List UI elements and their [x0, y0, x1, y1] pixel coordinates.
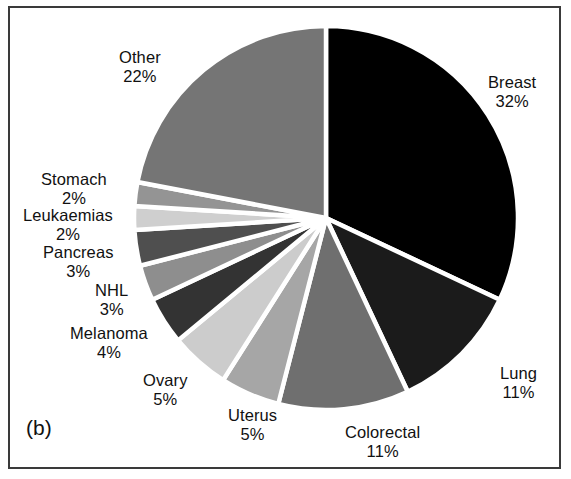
pie-label-pancreas-name: Pancreas	[43, 243, 114, 262]
figure-panel: Breast 32% Lung 11% Colorectal 11% Uteru…	[0, 0, 571, 479]
pie-label-uterus-name: Uterus	[228, 406, 277, 425]
pie-label-colorectal: Colorectal 11%	[345, 423, 420, 462]
pie-label-ovary: Ovary 5%	[143, 371, 188, 410]
pie-label-melanoma-name: Melanoma	[70, 324, 148, 343]
pie-label-other: Other 22%	[119, 48, 161, 87]
pie-label-nhl-value: 3%	[95, 300, 128, 319]
pie-label-nhl: NHL 3%	[95, 281, 128, 320]
pie-label-ovary-name: Ovary	[143, 371, 188, 390]
pie-label-melanoma-value: 4%	[70, 343, 148, 362]
pie-label-stomach-value: 2%	[41, 189, 107, 208]
pie-label-leukaemias-value: 2%	[23, 225, 113, 244]
pie-label-breast-value: 32%	[488, 92, 536, 111]
pie-label-pancreas: Pancreas 3%	[43, 243, 114, 282]
pie-label-stomach-name: Stomach	[41, 170, 107, 189]
pie-label-other-value: 22%	[119, 67, 161, 86]
pie-label-uterus-value: 5%	[228, 425, 277, 444]
pie-slice-group	[134, 26, 518, 410]
pie-label-breast-name: Breast	[488, 73, 536, 92]
pie-label-other-name: Other	[119, 48, 161, 67]
pie-label-melanoma: Melanoma 4%	[70, 324, 148, 363]
pie-slice-other	[137, 26, 326, 218]
pie-label-pancreas-value: 3%	[43, 262, 114, 281]
pie-label-stomach: Stomach 2%	[41, 170, 107, 209]
pie-label-lung-value: 11%	[500, 383, 537, 402]
pie-label-lung-name: Lung	[500, 364, 537, 383]
pie-label-leukaemias: Leukaemias 2%	[23, 206, 113, 245]
pie-label-lung: Lung 11%	[500, 364, 537, 403]
pie-label-uterus: Uterus 5%	[228, 406, 277, 445]
pie-label-colorectal-value: 11%	[345, 442, 420, 461]
pie-label-breast: Breast 32%	[488, 73, 536, 112]
pie-label-colorectal-name: Colorectal	[345, 423, 420, 442]
pie-label-ovary-value: 5%	[143, 390, 188, 409]
panel-letter: (b)	[26, 416, 52, 440]
pie-label-nhl-name: NHL	[95, 281, 128, 300]
